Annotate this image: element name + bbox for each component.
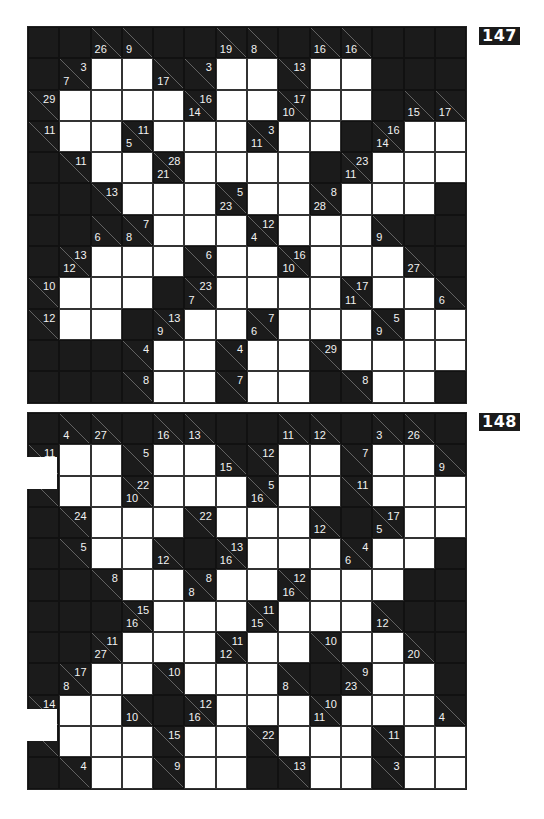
entry-cell[interactable] [341, 246, 372, 277]
entry-cell[interactable] [278, 152, 309, 183]
entry-cell[interactable] [404, 663, 435, 694]
entry-cell[interactable] [435, 340, 466, 371]
entry-cell[interactable] [184, 121, 215, 152]
entry-cell[interactable] [404, 476, 435, 507]
entry-cell[interactable] [122, 538, 153, 569]
entry-cell[interactable] [91, 246, 122, 277]
entry-cell[interactable] [278, 340, 309, 371]
entry-cell[interactable] [91, 663, 122, 694]
entry-cell[interactable] [435, 476, 466, 507]
entry-cell[interactable] [153, 90, 184, 121]
entry-cell[interactable] [341, 58, 372, 89]
entry-cell[interactable] [310, 726, 341, 757]
entry-cell[interactable] [341, 726, 372, 757]
entry-cell[interactable] [341, 215, 372, 246]
entry-cell[interactable] [59, 726, 90, 757]
entry-cell[interactable] [435, 726, 466, 757]
entry-cell[interactable] [341, 569, 372, 600]
entry-cell[interactable] [341, 695, 372, 726]
entry-cell[interactable] [278, 538, 309, 569]
entry-cell[interactable] [310, 309, 341, 340]
entry-cell[interactable] [122, 507, 153, 538]
entry-cell[interactable] [404, 726, 435, 757]
entry-cell[interactable] [153, 340, 184, 371]
entry-cell[interactable] [278, 601, 309, 632]
entry-cell[interactable] [404, 695, 435, 726]
entry-cell[interactable] [153, 632, 184, 663]
entry-cell[interactable] [59, 90, 90, 121]
entry-cell[interactable] [404, 121, 435, 152]
entry-cell[interactable] [216, 476, 247, 507]
entry-cell[interactable] [435, 152, 466, 183]
entry-cell[interactable] [59, 277, 90, 308]
entry-cell[interactable] [247, 569, 278, 600]
entry-cell[interactable] [404, 277, 435, 308]
entry-cell[interactable] [310, 215, 341, 246]
entry-cell[interactable] [122, 246, 153, 277]
entry-cell[interactable] [216, 757, 247, 788]
entry-cell[interactable] [216, 277, 247, 308]
entry-cell[interactable] [404, 309, 435, 340]
entry-cell[interactable] [122, 663, 153, 694]
entry-cell[interactable] [122, 58, 153, 89]
entry-cell[interactable] [153, 371, 184, 402]
entry-cell[interactable] [91, 121, 122, 152]
entry-cell[interactable] [435, 757, 466, 788]
entry-cell[interactable] [91, 757, 122, 788]
entry-cell[interactable] [278, 507, 309, 538]
entry-cell[interactable] [310, 444, 341, 475]
entry-cell[interactable] [435, 507, 466, 538]
entry-cell[interactable] [59, 309, 90, 340]
entry-cell[interactable] [310, 121, 341, 152]
entry-cell[interactable] [247, 183, 278, 214]
entry-cell[interactable] [278, 695, 309, 726]
entry-cell[interactable] [310, 569, 341, 600]
entry-cell[interactable] [310, 246, 341, 277]
entry-cell[interactable] [247, 695, 278, 726]
entry-cell[interactable] [184, 663, 215, 694]
entry-cell[interactable] [404, 152, 435, 183]
entry-cell[interactable] [216, 695, 247, 726]
entry-cell[interactable] [278, 183, 309, 214]
entry-cell[interactable] [247, 277, 278, 308]
entry-cell[interactable] [372, 695, 403, 726]
entry-cell[interactable] [278, 371, 309, 402]
entry-cell[interactable] [247, 663, 278, 694]
entry-cell[interactable] [184, 340, 215, 371]
entry-cell[interactable] [122, 569, 153, 600]
entry-cell[interactable] [59, 476, 90, 507]
entry-cell[interactable] [278, 726, 309, 757]
entry-cell[interactable] [184, 757, 215, 788]
entry-cell[interactable] [372, 152, 403, 183]
entry-cell[interactable] [372, 246, 403, 277]
entry-cell[interactable] [310, 476, 341, 507]
entry-cell[interactable] [404, 757, 435, 788]
entry-cell[interactable] [122, 632, 153, 663]
entry-cell[interactable] [372, 569, 403, 600]
entry-cell[interactable] [153, 444, 184, 475]
entry-cell[interactable] [372, 340, 403, 371]
entry-cell[interactable] [59, 444, 90, 475]
entry-cell[interactable] [404, 538, 435, 569]
entry-cell[interactable] [91, 726, 122, 757]
entry-cell[interactable] [91, 695, 122, 726]
entry-cell[interactable] [278, 444, 309, 475]
entry-cell[interactable] [91, 538, 122, 569]
entry-cell[interactable] [216, 601, 247, 632]
entry-cell[interactable] [404, 340, 435, 371]
entry-cell[interactable] [122, 726, 153, 757]
entry-cell[interactable] [341, 90, 372, 121]
entry-cell[interactable] [372, 444, 403, 475]
entry-cell[interactable] [184, 476, 215, 507]
entry-cell[interactable] [184, 601, 215, 632]
entry-cell[interactable] [372, 371, 403, 402]
entry-cell[interactable] [278, 215, 309, 246]
entry-cell[interactable] [310, 757, 341, 788]
entry-cell[interactable] [404, 183, 435, 214]
entry-cell[interactable] [91, 309, 122, 340]
entry-cell[interactable] [216, 663, 247, 694]
entry-cell[interactable] [372, 632, 403, 663]
entry-cell[interactable] [435, 121, 466, 152]
entry-cell[interactable] [91, 58, 122, 89]
entry-cell[interactable] [122, 757, 153, 788]
